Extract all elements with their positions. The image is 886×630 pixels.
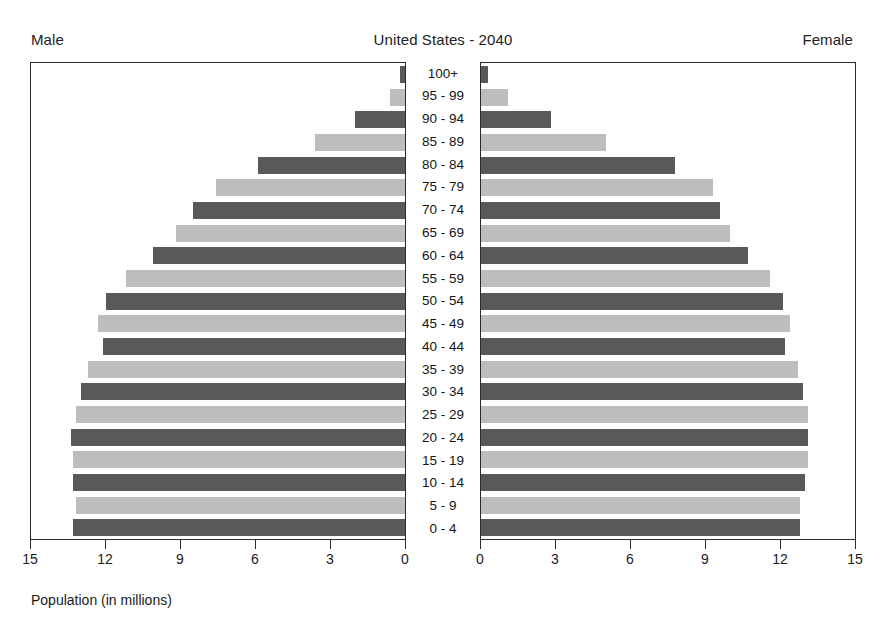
male-bar (73, 474, 405, 491)
bar-row (31, 176, 405, 199)
female-bar (481, 157, 675, 174)
bar-row (31, 471, 405, 494)
bar-row (481, 426, 855, 449)
bar-row (31, 131, 405, 154)
female-bar (481, 270, 770, 287)
bar-row (31, 516, 405, 539)
bar-row (481, 108, 855, 131)
age-group-label: 5 - 9 (406, 495, 480, 518)
axis-tick (405, 540, 406, 549)
axis-tick-label: 15 (847, 551, 863, 567)
male-bar (400, 66, 405, 83)
male-bar (73, 451, 405, 468)
female-bar (481, 247, 748, 264)
bar-row (481, 471, 855, 494)
female-bar-rows (481, 63, 855, 539)
female-plot-area (480, 62, 856, 540)
axis-tick (180, 540, 181, 549)
bar-row (481, 494, 855, 517)
bar-row (31, 267, 405, 290)
axis-tick-label: 0 (476, 551, 484, 567)
male-bar (88, 361, 405, 378)
bar-row (481, 358, 855, 381)
male-bar (106, 293, 405, 310)
bar-row (31, 63, 405, 86)
bar-row (481, 199, 855, 222)
axis-tick (105, 540, 106, 549)
bar-row (481, 244, 855, 267)
bar-row (481, 267, 855, 290)
female-bar (481, 179, 713, 196)
axis-tick (480, 540, 481, 549)
female-bar (481, 66, 488, 83)
male-bar (153, 247, 405, 264)
bar-row (481, 131, 855, 154)
age-group-label: 80 - 84 (406, 153, 480, 176)
female-bar (481, 474, 805, 491)
bar-row (481, 448, 855, 471)
bar-row (481, 86, 855, 109)
age-group-label: 15 - 19 (406, 449, 480, 472)
male-bar (315, 134, 405, 151)
female-bar (481, 89, 508, 106)
axis-tick-label: 9 (701, 551, 709, 567)
axis-tick-label: 3 (551, 551, 559, 567)
bar-row (31, 244, 405, 267)
bar-row (31, 426, 405, 449)
age-group-label: 0 - 4 (406, 517, 480, 540)
axis-tick (630, 540, 631, 549)
bar-row (31, 154, 405, 177)
age-group-label: 60 - 64 (406, 244, 480, 267)
age-group-label: 75 - 79 (406, 176, 480, 199)
age-group-label: 45 - 49 (406, 312, 480, 335)
age-group-label: 25 - 29 (406, 403, 480, 426)
bar-row (31, 403, 405, 426)
female-x-axis: 03691215 (480, 540, 856, 586)
age-group-label: 10 - 14 (406, 472, 480, 495)
female-bar (481, 338, 785, 355)
bar-row (481, 516, 855, 539)
age-group-label: 85 - 89 (406, 130, 480, 153)
female-bar (481, 451, 808, 468)
x-axis-caption: Population (in millions) (31, 592, 172, 608)
male-bar (193, 202, 405, 219)
age-group-label: 55 - 59 (406, 267, 480, 290)
age-group-label: 65 - 69 (406, 221, 480, 244)
bar-row (31, 108, 405, 131)
axis-tick (780, 540, 781, 549)
female-bar (481, 406, 808, 423)
bar-row (31, 358, 405, 381)
axis-tick (855, 540, 856, 549)
bar-row (481, 380, 855, 403)
male-bar-rows (31, 63, 405, 539)
age-group-label: 35 - 39 (406, 358, 480, 381)
male-bar (216, 179, 405, 196)
axis-tick-label: 9 (176, 551, 184, 567)
bar-row (481, 403, 855, 426)
female-bar (481, 134, 606, 151)
female-bar (481, 429, 808, 446)
bar-row (481, 222, 855, 245)
female-side-label: Female (802, 31, 853, 48)
female-bar (481, 497, 800, 514)
female-bar (481, 519, 800, 536)
age-group-label: 40 - 44 (406, 335, 480, 358)
axis-tick-label: 3 (326, 551, 334, 567)
axis-tick-label: 15 (22, 551, 38, 567)
male-bar (71, 429, 405, 446)
male-bar (126, 270, 405, 287)
page-title: United States - 2040 (0, 31, 886, 48)
bar-row (31, 494, 405, 517)
axis-tick (255, 540, 256, 549)
axis-tick (330, 540, 331, 549)
axis-tick (555, 540, 556, 549)
male-bar (176, 225, 405, 242)
female-bar (481, 315, 790, 332)
male-x-axis: 15129630 (30, 540, 406, 586)
bar-row (481, 154, 855, 177)
bar-row (31, 86, 405, 109)
bar-row (31, 312, 405, 335)
age-group-label: 30 - 34 (406, 381, 480, 404)
male-plot-area (30, 62, 406, 540)
age-group-label: 100+ (406, 62, 480, 85)
